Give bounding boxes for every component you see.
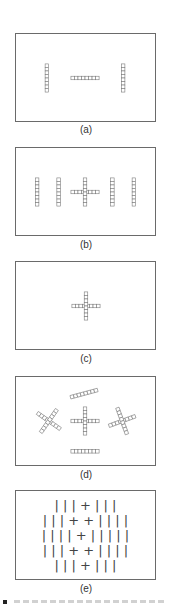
bar-cell [84, 317, 88, 321]
rotated-cross [108, 407, 136, 435]
panel-d-label: (d) [0, 469, 172, 481]
bar-cell [83, 425, 87, 429]
bar-cell [89, 76, 93, 80]
bar-cell [78, 190, 82, 194]
bar-cell [45, 71, 49, 75]
bar-cell [78, 419, 82, 423]
vertical-bar [132, 178, 136, 206]
bar-cell [92, 190, 96, 194]
bar-cell [92, 76, 96, 80]
bar-cell [35, 188, 39, 192]
bar-cell [111, 192, 115, 196]
bar-cell [111, 181, 115, 185]
horizontal-bar [71, 76, 99, 80]
bar-cell [45, 67, 49, 71]
cross-vertical-arm [83, 407, 87, 435]
bar-cell [132, 188, 136, 192]
caption-bullet [3, 600, 7, 604]
bar-cell [96, 450, 100, 454]
bar-cell [79, 304, 83, 308]
bar-cell [71, 450, 75, 454]
bar-cell [96, 419, 100, 423]
bar-cell [35, 192, 39, 196]
panel-c-drawing [16, 262, 155, 349]
bar-cell [71, 419, 75, 423]
panel-b-drawing [16, 148, 155, 235]
bar-cell [132, 181, 136, 185]
bar-cell [132, 185, 136, 189]
bar-cell [74, 190, 78, 194]
cross-vertical-arm [83, 178, 87, 206]
bar-cell [83, 414, 87, 418]
bar-cell [57, 199, 61, 203]
bar-cell [83, 181, 87, 185]
bar-cell [94, 388, 98, 392]
bar-cell [111, 188, 115, 192]
symbol-row: | | | + | | | [16, 499, 155, 513]
panel-b-label: (b) [0, 239, 172, 251]
bar-cell [45, 85, 49, 89]
bar-cell [121, 64, 125, 68]
bar-cell [84, 313, 88, 317]
bar-cell [84, 306, 88, 310]
bar-cell [71, 190, 75, 194]
bar-cell [57, 203, 61, 207]
bar-cell [78, 450, 82, 454]
bar-cell [84, 310, 88, 314]
bar-cell [92, 419, 96, 423]
cross [71, 407, 99, 435]
bar-cell [45, 74, 49, 78]
bar-cell [74, 76, 78, 80]
vertical-bar [45, 64, 49, 92]
bar-cell [121, 74, 125, 78]
bar-cell [45, 78, 49, 82]
bar-cell [57, 188, 61, 192]
symbol-row: | | | + | | | [16, 559, 155, 573]
bar-cell [45, 64, 49, 68]
bar-cell [83, 410, 87, 414]
bar-cell [84, 295, 88, 299]
bar-cell [74, 419, 78, 423]
bar-cell [83, 188, 87, 192]
bar-cell [72, 304, 76, 308]
bar-cell [121, 71, 125, 75]
bar-cell [78, 76, 82, 80]
panel-a-drawing [16, 34, 155, 121]
bar-cell [132, 199, 136, 203]
vertical-bar [111, 178, 115, 206]
symbol-row: | | | | + | | | | | [16, 529, 155, 543]
bar-cell [96, 190, 100, 194]
cross-vertical-arm [39, 408, 58, 433]
panel-c [15, 261, 156, 350]
bar-cell [57, 181, 61, 185]
bar-cell [83, 185, 87, 189]
bar-cell [83, 192, 87, 196]
cross [72, 292, 100, 320]
bar-cell [57, 196, 61, 200]
bar-cell [89, 450, 93, 454]
bar-cell [121, 85, 125, 89]
bar-cell [83, 417, 87, 421]
bar-cell [121, 89, 125, 93]
bar-cell [92, 450, 96, 454]
bar-cell [35, 196, 39, 200]
bar-cell [132, 196, 136, 200]
panel-b [15, 147, 156, 236]
bar-cell [74, 450, 78, 454]
tilted-bar [70, 388, 98, 399]
bar-cell [131, 415, 136, 420]
panel-e-label: (e) [0, 583, 172, 595]
bar-cell [89, 419, 93, 423]
cross [71, 178, 99, 206]
bar-cell [85, 76, 89, 80]
bar-cell [57, 185, 61, 189]
rotated-cross [36, 408, 61, 433]
panel-e: | | | + | | | | | | + + | | | | | | | | … [15, 490, 156, 580]
bar-cell [90, 304, 94, 308]
cross-vertical-arm [84, 292, 88, 320]
panel-a-label: (a) [0, 124, 172, 136]
vertical-bar [35, 178, 39, 206]
bar-cell [81, 76, 85, 80]
bar-cell [96, 76, 100, 80]
bar-cell [83, 432, 87, 436]
